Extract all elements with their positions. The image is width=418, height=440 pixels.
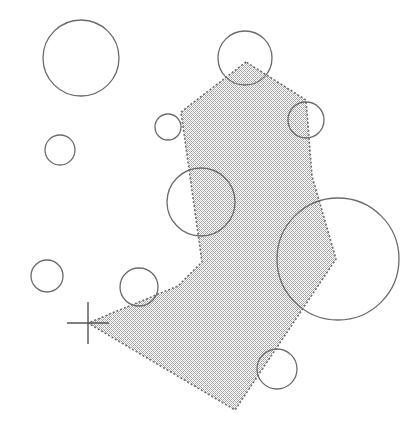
diagram-svg (0, 0, 418, 440)
figure-canvas (0, 0, 418, 440)
